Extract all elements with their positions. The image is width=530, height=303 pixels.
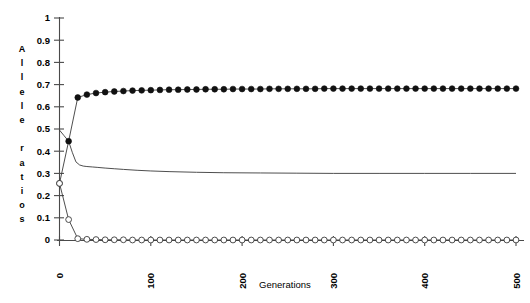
data-point-marker [477,237,483,243]
chart-container: Alleleratios 00.10.20.30.40.50.60.70.80.… [0,0,530,303]
data-point-marker [413,86,419,92]
data-point-marker [84,236,90,242]
data-point-marker [340,86,346,92]
data-point-marker [148,237,154,243]
data-point-marker [130,237,136,243]
data-point-marker [276,86,282,92]
data-point-marker [157,87,163,93]
data-point-marker [385,237,391,243]
data-point-marker [294,86,300,92]
data-point-marker [331,86,337,92]
data-point-marker [157,237,163,243]
series-markers [57,86,519,243]
data-point-marker [239,86,245,92]
data-point-marker [367,86,373,92]
y-axis-title-letter: e [19,115,24,125]
data-point-marker [385,86,391,92]
data-point-marker [212,86,218,92]
y-tick-label: 0.1 [37,212,51,223]
data-point-marker [449,86,455,92]
data-point-marker [349,86,355,92]
data-point-marker [321,237,327,243]
y-tick-label: 0.6 [37,101,50,112]
data-point-marker [184,87,190,93]
data-point-marker [477,86,483,92]
data-point-marker [495,86,501,92]
data-point-marker [130,88,136,94]
data-point-marker [504,237,510,243]
y-axis-title-letter: i [21,186,24,196]
data-point-marker [212,237,218,243]
data-point-marker [111,89,117,95]
y-tick-label: 0.3 [37,168,50,179]
y-axis-title-letter: a [19,158,25,168]
y-tick-label: 0.7 [37,79,50,90]
data-point-marker [148,87,154,93]
y-axis-title-letter: r [20,143,24,153]
data-point-marker [257,86,263,92]
data-point-marker [221,86,227,92]
data-point-marker [121,88,127,94]
data-point-marker [230,86,236,92]
data-point-marker [458,237,464,243]
data-point-marker [349,237,355,243]
y-axis-tick-labels: 00.10.20.30.40.50.60.70.80.91 [37,12,51,245]
data-point-marker [75,236,81,242]
series-path-filled-circle-series [60,89,517,184]
y-axis-title-letter: o [19,200,25,210]
data-point-marker [294,237,300,243]
data-point-marker [431,237,437,243]
y-axis-title-letter: s [19,214,24,224]
data-point-marker [303,86,309,92]
data-point-marker [431,86,437,92]
data-point-marker [121,237,127,243]
data-point-marker [166,237,172,243]
data-point-marker [394,86,400,92]
data-point-marker [66,138,72,144]
data-point-marker [102,237,108,243]
data-point-marker [93,237,99,243]
data-point-marker [267,86,273,92]
data-point-marker [486,86,492,92]
data-point-marker [358,237,364,243]
data-point-marker [413,237,419,243]
data-point-marker [321,86,327,92]
data-point-marker [331,237,337,243]
y-tick-label: 0.9 [37,35,50,46]
data-point-marker [404,86,410,92]
data-point-marker [111,237,117,243]
x-tick-label: 500 [511,273,522,289]
data-point-marker [513,86,519,92]
x-tick-label: 300 [328,273,339,289]
data-point-marker [495,237,501,243]
x-tick-label: 100 [145,273,156,289]
y-axis-title-letter: l [21,72,24,82]
y-tick-label: 1 [45,12,51,23]
x-tick-label: 400 [419,273,430,289]
data-point-marker [66,217,72,223]
data-point-marker [285,86,291,92]
data-point-marker [221,237,227,243]
y-tick-label: 0.5 [37,123,51,134]
data-point-marker [239,237,245,243]
data-point-marker [422,86,428,92]
data-point-marker [194,237,200,243]
data-point-marker [248,86,254,92]
data-point-marker [458,86,464,92]
data-point-marker [285,237,291,243]
data-point-marker [367,237,373,243]
data-point-marker [504,86,510,92]
y-axis-title: Alleleratios [19,44,26,224]
data-point-marker [340,237,346,243]
data-point-marker [467,86,473,92]
series-lines [60,89,517,240]
data-point-marker [276,237,282,243]
y-axis-title-letter: t [21,172,24,182]
x-tick-label: 0 [54,273,65,278]
data-point-marker [175,237,181,243]
y-axis-title-letter: l [21,101,24,111]
y-axis-title-letter: A [19,44,26,54]
series-path-open-circle-series [60,183,517,240]
data-point-marker [248,237,254,243]
y-tick-label: 0.8 [37,57,50,68]
